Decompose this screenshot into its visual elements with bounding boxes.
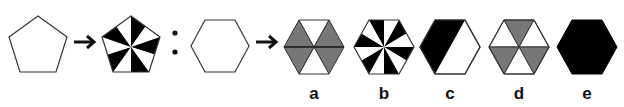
option-d-hexagon[interactable] [489, 20, 549, 74]
arrow-right-icon [256, 36, 276, 48]
question-source-hexagon [191, 20, 249, 72]
arrow-right-icon [74, 36, 94, 48]
option-b-label[interactable]: b [369, 84, 399, 104]
option-d-label[interactable]: d [504, 84, 534, 104]
option-a-label[interactable]: a [299, 84, 329, 104]
option-c-hexagon[interactable] [420, 20, 480, 74]
colon-separator [172, 30, 177, 54]
option-b-hexagon[interactable] [354, 20, 414, 74]
option-c-label[interactable]: c [435, 84, 465, 104]
premise-target-pinwheel-pentagon [102, 16, 160, 72]
option-e-label[interactable]: e [572, 84, 602, 104]
option-a-hexagon[interactable] [284, 20, 344, 74]
premise-source-pentagon [9, 16, 67, 72]
option-e-hexagon[interactable] [557, 20, 617, 74]
